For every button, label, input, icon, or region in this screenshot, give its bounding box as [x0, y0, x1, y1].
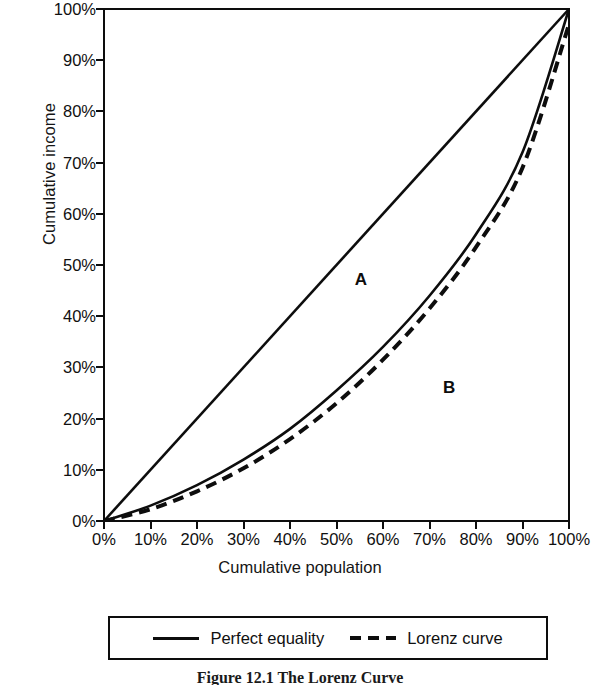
figure-caption: Figure 12.1 The Lorenz Curve	[0, 669, 600, 685]
series-line-lorenz-curve-2	[104, 24, 569, 521]
y-tick-mark	[96, 162, 103, 164]
y-tick-mark	[96, 213, 103, 215]
y-tick-label: 100%	[24, 1, 96, 17]
x-tick-mark	[103, 522, 105, 529]
y-tick-mark	[96, 418, 103, 420]
figure-caption-text: Figure 12.1 The Lorenz Curve	[197, 670, 404, 685]
y-tick-label: 10%	[24, 462, 96, 478]
y-tick-label: 30%	[24, 359, 96, 375]
y-tick-label: 20%	[24, 411, 96, 427]
curve-layer	[103, 8, 570, 522]
x-tick-mark	[289, 522, 291, 529]
x-tick-mark	[382, 522, 384, 529]
y-tick-label: 40%	[24, 308, 96, 324]
y-tick-label: 90%	[24, 52, 96, 68]
y-tick-mark	[96, 59, 103, 61]
x-tick-mark	[196, 522, 198, 529]
y-tick-label: 70%	[24, 155, 96, 171]
x-tick-mark	[475, 522, 477, 529]
y-tick-label: 0%	[24, 513, 96, 529]
y-tick-label: 50%	[24, 257, 96, 273]
legend-swatch-solid-line	[153, 637, 199, 640]
chart-legend: Perfect equality Lorenz curve	[108, 616, 548, 660]
region-label-b: B	[443, 379, 455, 396]
y-tick-mark	[96, 469, 103, 471]
x-tick-mark	[150, 522, 152, 529]
x-tick-mark	[522, 522, 524, 529]
x-tick-mark	[243, 522, 245, 529]
y-tick-mark	[96, 520, 103, 522]
y-tick-mark	[96, 315, 103, 317]
legend-label-perfect-equality: Perfect equality	[210, 629, 324, 648]
y-tick-label: 80%	[24, 103, 96, 119]
x-axis-tick-labels: 0%10%20%30%40%50%60%70%80%90%100%	[0, 529, 600, 553]
x-tick-mark	[568, 522, 570, 529]
x-tick-label: 100%	[539, 529, 599, 549]
y-tick-mark	[96, 8, 103, 10]
lorenz-curve-figure: Cumulative income 0%10%20%30%40%50%60%70…	[0, 0, 600, 685]
x-tick-mark	[429, 522, 431, 529]
series-line-perfect-equality-0	[104, 9, 569, 521]
x-tick-mark	[336, 522, 338, 529]
legend-entry-perfect-equality: Perfect equality	[153, 629, 324, 648]
legend-swatch-dashed-line	[350, 636, 396, 640]
plot-area: AB	[103, 8, 570, 522]
y-tick-mark	[96, 110, 103, 112]
legend-label-lorenz-curve: Lorenz curve	[407, 629, 502, 648]
y-axis-tick-labels: 0%10%20%30%40%50%60%70%80%90%100%	[24, 0, 96, 530]
y-tick-mark	[96, 264, 103, 266]
region-label-a: A	[355, 271, 367, 288]
y-tick-label: 60%	[24, 206, 96, 222]
x-axis-title: Cumulative population	[0, 558, 600, 577]
y-tick-mark	[96, 366, 103, 368]
legend-entry-lorenz-curve: Lorenz curve	[350, 629, 502, 648]
